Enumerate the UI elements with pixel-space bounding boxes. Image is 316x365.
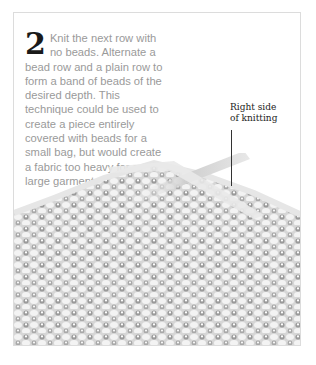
step-number: 2 [25, 32, 46, 56]
callout-line-1: Right side [230, 102, 277, 113]
callout-line-2: of knitting [230, 113, 277, 124]
callout-label: Right side of knitting [230, 102, 277, 124]
knitting-photo [14, 153, 301, 346]
callout-leader-line [231, 130, 232, 186]
page-frame: 2 Knit the next row with no beads. Alter… [13, 12, 301, 346]
